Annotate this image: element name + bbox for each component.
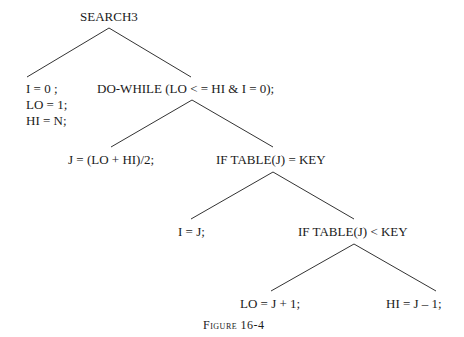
- edge-root-init: [27, 28, 109, 77]
- node-loop: DO-WHILE (LO < = HI & I = 0);: [97, 81, 274, 97]
- edge-loop-ifequal: [192, 100, 273, 147]
- init-line: LO = 1;: [26, 97, 67, 113]
- edge-ifless-lo: [271, 244, 354, 291]
- figure-caption: Figure 16-4: [203, 318, 265, 333]
- edge-root-loop: [109, 28, 191, 77]
- node-init-block: I = 0 ; LO = 1; HI = N;: [26, 81, 67, 129]
- node-move-lo: LO = J + 1;: [240, 296, 300, 312]
- node-compute-mid: J = (LO + HI)/2;: [68, 152, 154, 168]
- node-if-less: IF TABLE(J) < KEY: [298, 224, 408, 240]
- node-move-hi: HI = J – 1;: [386, 296, 442, 312]
- edge-ifequal-ifless: [273, 172, 354, 219]
- edge-loop-mid: [111, 100, 192, 147]
- edge-ifless-hi: [354, 244, 436, 291]
- figure-caption-text: Figure 16-4: [203, 318, 265, 332]
- init-line: HI = N;: [26, 113, 67, 129]
- node-if-equal: IF TABLE(J) = KEY: [216, 152, 326, 168]
- node-root: SEARCH3: [80, 9, 138, 25]
- init-line: I = 0 ;: [26, 81, 67, 97]
- edge-ifequal-found: [191, 172, 273, 219]
- tree-edges: [0, 0, 464, 337]
- node-found: I = J;: [178, 224, 205, 240]
